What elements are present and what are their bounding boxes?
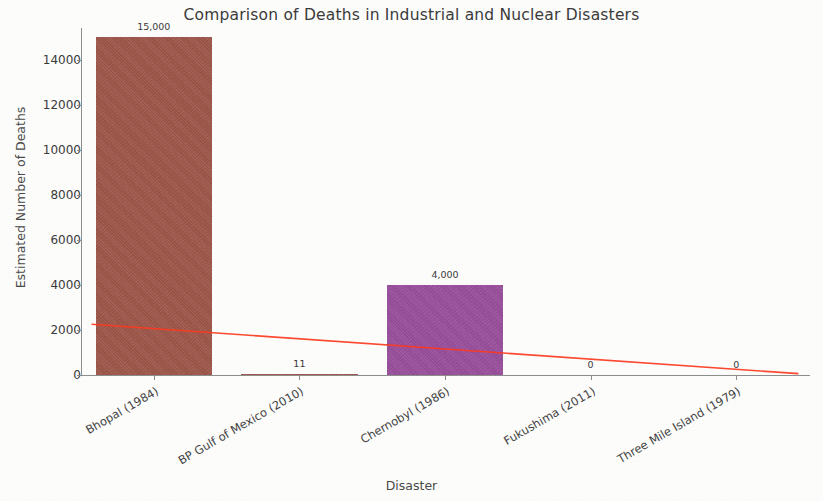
bar-value-label: 15,000 bbox=[137, 21, 170, 32]
bar-value-label: 11 bbox=[293, 358, 305, 369]
x-tick-mark bbox=[445, 376, 446, 380]
x-tick-mark bbox=[299, 376, 300, 380]
bar-value-label: 0 bbox=[588, 359, 594, 370]
bar-texture bbox=[96, 37, 212, 375]
y-tick-label: 4000 bbox=[0, 278, 81, 292]
y-tick-mark bbox=[77, 375, 81, 376]
bar-texture bbox=[241, 374, 357, 375]
y-tick-label: 10000 bbox=[0, 143, 81, 157]
y-tick-label: 2000 bbox=[0, 323, 81, 337]
y-tick-label: 8000 bbox=[0, 188, 81, 202]
bar[interactable] bbox=[241, 374, 357, 375]
bar[interactable] bbox=[387, 285, 503, 375]
chart-title: Comparison of Deaths in Industrial and N… bbox=[0, 6, 823, 24]
bar-value-label: 0 bbox=[733, 359, 739, 370]
y-tick-label: 0 bbox=[0, 368, 81, 382]
x-tick-mark bbox=[736, 376, 737, 380]
chart-figure: Comparison of Deaths in Industrial and N… bbox=[0, 0, 823, 501]
x-tick-mark bbox=[154, 376, 155, 380]
y-tick-label: 6000 bbox=[0, 233, 81, 247]
y-tick-label: 12000 bbox=[0, 98, 81, 112]
bar-texture bbox=[387, 285, 503, 375]
y-tick-label: 14000 bbox=[0, 53, 81, 67]
plot-area bbox=[81, 28, 809, 375]
bar-value-label: 4,000 bbox=[431, 269, 458, 280]
bar[interactable] bbox=[96, 37, 212, 375]
x-tick-mark bbox=[591, 376, 592, 380]
